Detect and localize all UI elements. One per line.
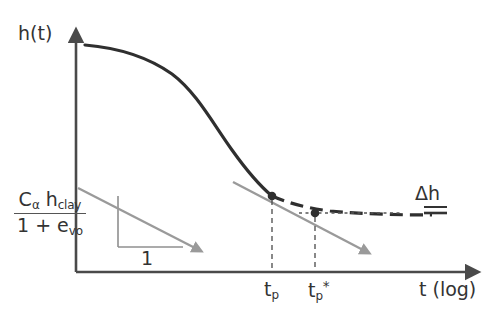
secondary-compression-dashed-curve	[272, 196, 432, 215]
tp-star-subscript: p	[315, 289, 322, 303]
calpha-e: e	[57, 214, 69, 236]
diagram-canvas	[0, 0, 500, 321]
tp-point-marker	[268, 192, 277, 201]
primary-consolidation-curve	[85, 45, 272, 196]
secondary-compression-slope-line	[78, 188, 197, 249]
tangent-slope-line	[233, 182, 365, 251]
tp-star-point-marker	[311, 209, 320, 218]
calpha-c: C	[19, 188, 32, 210]
slope-triangle	[118, 196, 183, 247]
tp-subscript: p	[271, 288, 278, 302]
calpha-alpha-subscript: α	[32, 198, 40, 212]
calpha-numerator: Cα hclay	[14, 190, 86, 214]
delta-h-label: Δh	[415, 184, 440, 203]
tp-star-superscript: *	[323, 278, 330, 294]
tp-tick-label: tp	[264, 280, 279, 302]
x-axis-label: t (log)	[419, 280, 476, 299]
slope-run-label: 1	[141, 249, 153, 268]
calpha-vo-subscript: vo	[69, 225, 83, 239]
figure-container: h(t) t (log) tp tp* Δh 1 Cα hclay 1 + ev…	[0, 0, 500, 321]
tp-star-tick-label: tp*	[308, 280, 330, 303]
calpha-rate-formula: Cα hclay 1 + evo	[14, 190, 86, 239]
calpha-denominator: 1 + evo	[14, 214, 86, 238]
y-axis-label: h(t)	[18, 24, 52, 43]
calpha-h: h	[46, 188, 58, 210]
calpha-one-plus: 1 +	[17, 214, 51, 236]
axes-group	[76, 38, 470, 272]
calpha-clay-subscript: clay	[58, 198, 82, 212]
